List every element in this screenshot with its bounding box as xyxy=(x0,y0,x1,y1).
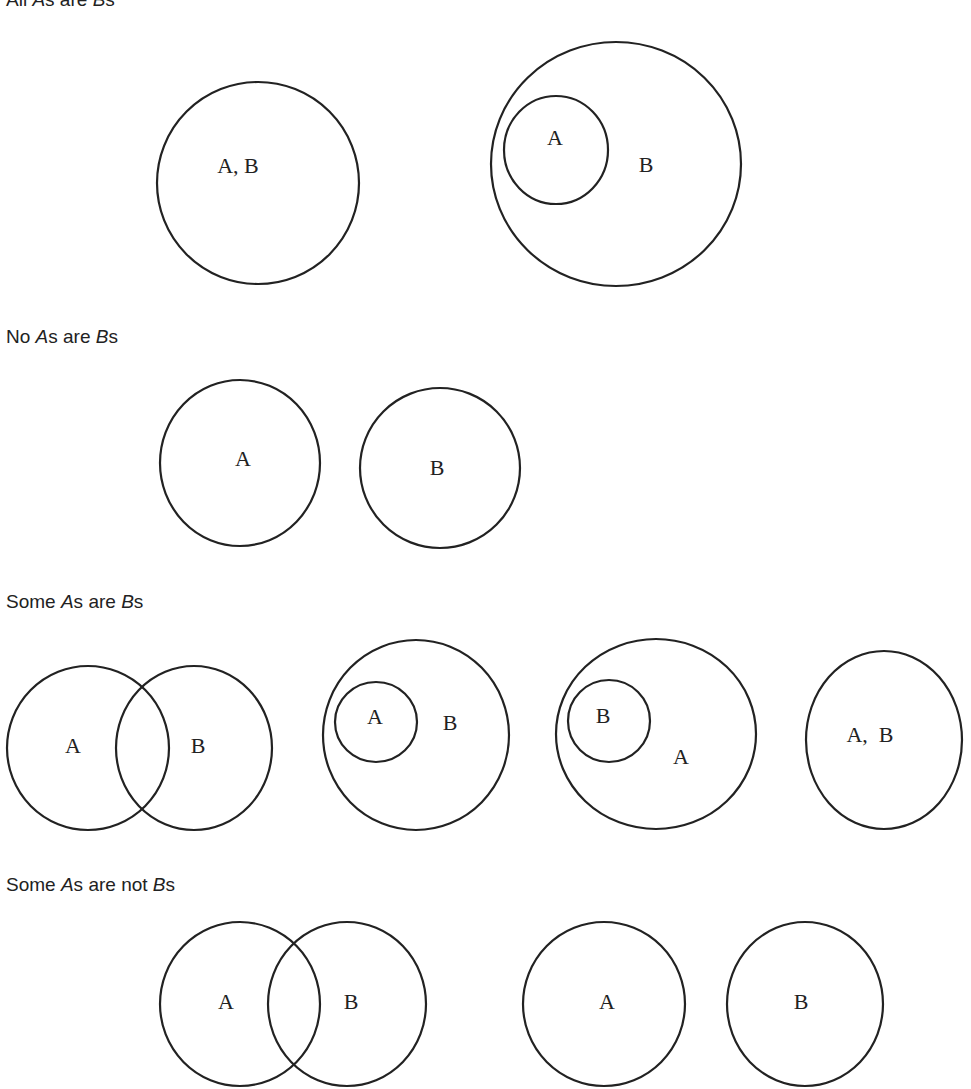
set-label: A xyxy=(673,744,689,769)
set-label: B xyxy=(191,733,206,758)
set-label: A xyxy=(218,989,234,1014)
venn-diagram-some-not-2: A xyxy=(523,922,685,1086)
venn-diagram-all-2: AB xyxy=(491,42,741,286)
set-label: B xyxy=(639,152,654,177)
set-label: A, B xyxy=(846,722,893,747)
venn-diagram-some-4: A, B xyxy=(806,651,962,829)
venn-diagram-no-1: A xyxy=(160,380,320,546)
set-label: A xyxy=(547,125,563,150)
venn-diagram-some-2: AB xyxy=(323,640,509,830)
set-circle xyxy=(160,922,320,1086)
set-circle xyxy=(157,82,359,284)
set-label: B xyxy=(430,455,445,480)
set-circle xyxy=(491,42,741,286)
set-label: B xyxy=(794,989,809,1014)
set-label: B xyxy=(443,710,458,735)
set-label: B xyxy=(344,989,359,1014)
venn-diagram-some-not-3: B xyxy=(727,922,883,1086)
venn-diagram-all-1: A, B xyxy=(157,82,359,284)
venn-diagram-some-not-1: AB xyxy=(160,922,426,1086)
venn-diagram-some-1: AB xyxy=(7,666,272,830)
set-label: A xyxy=(367,704,383,729)
venn-diagram-canvas: A, BABABABABBAA, BABAB xyxy=(0,0,971,1089)
set-label: A, B xyxy=(217,153,259,178)
set-label: A xyxy=(235,446,251,471)
set-circle xyxy=(7,666,169,830)
venn-diagram-no-2: B xyxy=(360,388,520,548)
set-label: A xyxy=(65,733,81,758)
set-label: B xyxy=(596,703,611,728)
set-label: A xyxy=(599,989,615,1014)
set-circle xyxy=(556,639,756,829)
venn-diagram-some-3: BA xyxy=(556,639,756,829)
